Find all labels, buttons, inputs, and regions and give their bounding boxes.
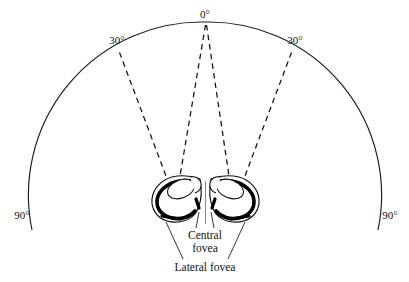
central-fovea-label-line1: Central	[188, 229, 222, 241]
axis-label-right-ninety-degrees: 90°	[382, 209, 397, 221]
eye-pair-group	[152, 175, 259, 224]
figure-root: 0° 30° 30° 90° 90°	[0, 0, 409, 282]
lateral-fovea-leader-right	[228, 222, 245, 259]
axis-label-left-ninety-degrees: 90°	[14, 209, 29, 221]
central-fovea-label-line2: fovea	[192, 242, 218, 254]
visual-field-arc	[28, 22, 381, 230]
axis-label-zero-degrees: 0°	[200, 8, 210, 20]
lateral-fovea-label: Lateral fovea	[175, 261, 236, 273]
right-lateral-sight-line	[245, 53, 292, 177]
central-fovea-leader-right	[211, 212, 214, 228]
axis-label-right-thirty-degrees: 30°	[287, 34, 302, 46]
right-central-sight-line	[207, 25, 230, 176]
left-central-sight-line	[180, 25, 206, 176]
right-eye	[210, 175, 259, 222]
visual-field-diagram: 0° 30° 30° 90° 90°	[0, 0, 409, 282]
left-eye	[152, 175, 201, 222]
lateral-fovea-leader-left	[166, 222, 183, 259]
central-fovea-leader-left	[196, 212, 199, 228]
left-lateral-sight-line	[120, 53, 167, 177]
axis-label-left-thirty-degrees: 30°	[109, 34, 124, 46]
